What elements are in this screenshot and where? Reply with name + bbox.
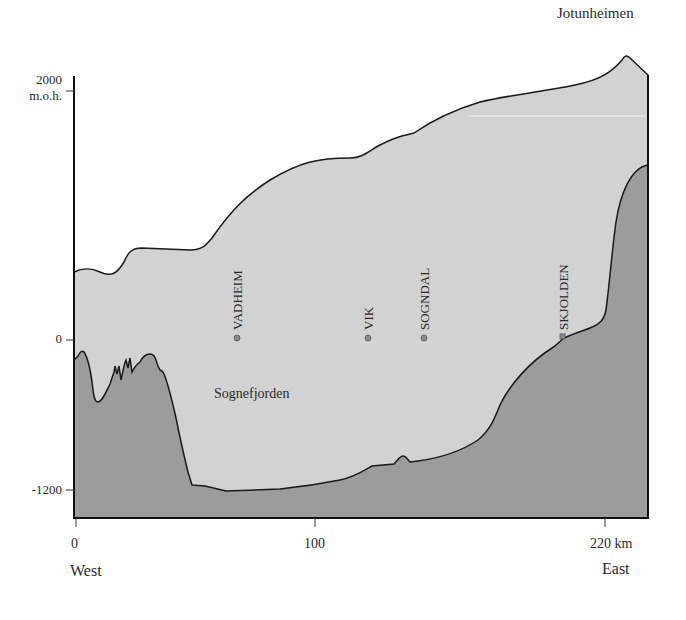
vadheim-marker-icon (234, 335, 240, 341)
y-label-0: 0 (40, 331, 62, 347)
y-label-minus-1200: -1200 (20, 482, 62, 498)
y-label-unit: m.o.h. (14, 88, 62, 104)
vik-marker-icon (365, 335, 371, 341)
place-label-vik: VIK (361, 306, 376, 330)
west-label: West (70, 562, 102, 580)
place-label-vadheim: VADHEIM (230, 270, 245, 330)
skjolden-marker-icon (560, 334, 565, 339)
jotunheimen-label: Jotunheimen (557, 5, 634, 22)
sogndal-marker-icon (421, 335, 427, 341)
y-label-2000: 2000 (24, 72, 62, 88)
profile-svg: VADHEIM VIK SOGNDAL SKJOLDEN (0, 0, 686, 620)
place-label-sogndal: SOGNDAL (417, 268, 432, 330)
x-label-220-km: 220 km (590, 536, 632, 552)
fjord-label: Sognefjorden (214, 386, 289, 402)
place-label-skjolden: SKJOLDEN (556, 264, 571, 330)
east-label: East (602, 560, 630, 578)
x-label-0: 0 (71, 536, 78, 552)
x-label-100: 100 (304, 536, 325, 552)
fjord-profile-diagram: VADHEIM VIK SOGNDAL SKJOLDEN Jotunheimen… (0, 0, 686, 620)
